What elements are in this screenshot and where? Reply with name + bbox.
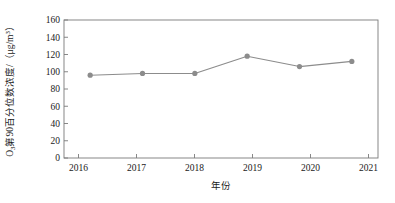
- y-axis-title-middle: 第90百分位数浓度/（μg/m: [4, 34, 15, 147]
- line-chart: 0 20 40 60 80 100 120 140 160 2016 2017 …: [0, 0, 395, 203]
- y-axis-title-tail: ）: [4, 21, 15, 31]
- data-point: [297, 64, 302, 69]
- y-tick-label: 80: [51, 84, 61, 94]
- y-tick-label: 160: [46, 15, 61, 25]
- series-line: [90, 56, 352, 75]
- x-tick-label: 2020: [301, 163, 320, 173]
- y-tick-label: 60: [51, 102, 61, 112]
- chart-container: 0 20 40 60 80 100 120 140 160 2016 2017 …: [0, 0, 395, 203]
- data-point: [140, 71, 145, 76]
- x-tick-label: 2018: [185, 163, 204, 173]
- y-tick-label: 140: [46, 33, 61, 43]
- x-tick-label: 2021: [359, 163, 378, 173]
- y-axis-ticks: [64, 20, 68, 158]
- x-tick-label: 2016: [69, 163, 88, 173]
- data-point: [88, 73, 93, 78]
- x-axis-title: 年份: [211, 180, 231, 191]
- x-tick-label: 2017: [127, 163, 146, 173]
- y-axis-title: O3第90百分位数浓度/（μg/m3）: [4, 21, 16, 157]
- x-axis-ticks: [79, 154, 369, 158]
- y-tick-label: 20: [51, 136, 61, 146]
- data-point: [192, 71, 197, 76]
- x-axis-tick-labels: 2016 2017 2018 2019 2020 2021: [69, 163, 378, 173]
- y-tick-label: 40: [51, 119, 61, 129]
- y-tick-label: 120: [46, 50, 61, 60]
- x-tick-label: 2019: [243, 163, 262, 173]
- y-tick-label: 100: [46, 67, 61, 77]
- y-tick-label: 0: [55, 153, 60, 163]
- plot-frame: [64, 20, 378, 158]
- y-axis-tick-labels: 0 20 40 60 80 100 120 140 160: [46, 15, 61, 163]
- data-point: [349, 59, 354, 64]
- data-point: [245, 54, 250, 59]
